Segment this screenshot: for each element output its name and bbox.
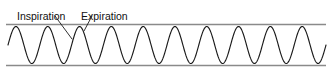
waveform-canvas: Inspiration Expiration bbox=[0, 0, 332, 74]
respiration-figure: Inspiration Expiration bbox=[0, 0, 332, 74]
respiration-waveform bbox=[8, 27, 326, 64]
inspiration-label: Inspiration bbox=[17, 10, 66, 22]
expiration-label: Expiration bbox=[81, 10, 128, 22]
